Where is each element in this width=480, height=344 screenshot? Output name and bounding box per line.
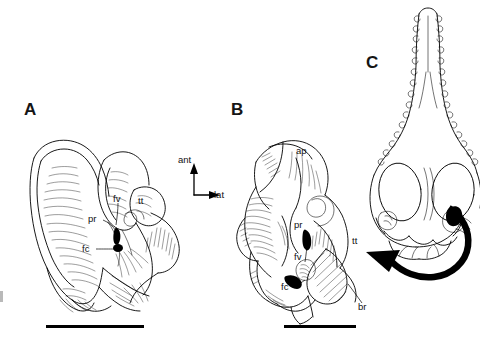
scale-bar-panel-b: [284, 325, 356, 328]
reference-arrow: [0, 0, 480, 344]
scale-bar-panel-a: [46, 325, 144, 328]
figure-canvas: A fv pr fc tt ant lat: [0, 0, 480, 344]
edge-artifact: [0, 291, 3, 302]
